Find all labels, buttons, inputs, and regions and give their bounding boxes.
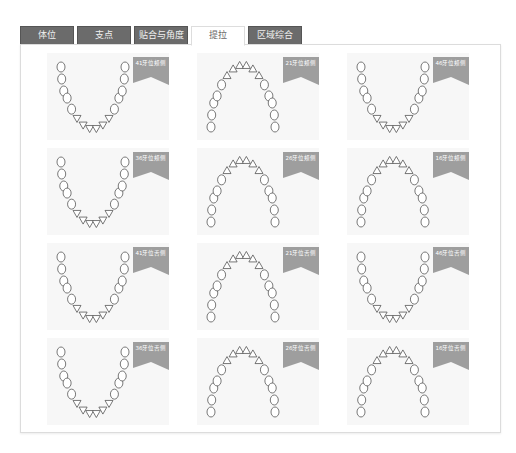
- card-label: 21牙位舌侧: [283, 249, 319, 257]
- tooth-position-card[interactable]: 26牙位舌侧: [197, 338, 319, 425]
- content-panel: 41牙位颊侧21牙位颊侧46牙位颊侧36牙位颊侧26牙位颊侧16牙位颊侧41牙位…: [20, 44, 501, 433]
- dental-arch-icon: [351, 247, 435, 327]
- tooth-grid: 41牙位颊侧21牙位颊侧46牙位颊侧36牙位颊侧26牙位颊侧16牙位颊侧41牙位…: [47, 53, 469, 425]
- card-label: 36牙位颊侧: [133, 154, 169, 162]
- dental-arch-icon: [201, 152, 285, 232]
- tooth-position-card[interactable]: 36牙位舌侧: [47, 338, 169, 425]
- tab-bar: 体位 支点 贴合与角度 提拉 区域综合: [20, 26, 302, 46]
- dental-arch-icon: [51, 247, 135, 327]
- dental-arch-icon: [351, 342, 435, 422]
- dental-arch-icon: [51, 152, 135, 232]
- card-label: 21牙位颊侧: [283, 59, 319, 67]
- card-label: 26牙位颊侧: [283, 154, 319, 162]
- tooth-position-card[interactable]: 46牙位颊侧: [347, 53, 469, 140]
- card-label: 41牙位颊侧: [133, 59, 169, 67]
- dental-arch-icon: [51, 57, 135, 137]
- dental-arch-icon: [201, 342, 285, 422]
- dental-arch-icon: [201, 247, 285, 327]
- tooth-position-card[interactable]: 36牙位颊侧: [47, 148, 169, 235]
- card-label: 26牙位舌侧: [283, 344, 319, 352]
- card-label: 36牙位舌侧: [133, 344, 169, 352]
- card-label: 46牙位颊侧: [433, 59, 469, 67]
- tab-fit-angle[interactable]: 贴合与角度: [134, 26, 188, 45]
- tooth-position-card[interactable]: 16牙位颊侧: [347, 148, 469, 235]
- card-label: 16牙位舌侧: [433, 344, 469, 352]
- dental-arch-icon: [351, 152, 435, 232]
- tooth-position-card[interactable]: 21牙位舌侧: [197, 243, 319, 330]
- tooth-position-card[interactable]: 46牙位舌侧: [347, 243, 469, 330]
- dental-arch-icon: [51, 342, 135, 422]
- tab-lift[interactable]: 提拉: [191, 26, 245, 46]
- tooth-position-card[interactable]: 16牙位舌侧: [347, 338, 469, 425]
- dental-arch-icon: [201, 57, 285, 137]
- card-label: 46牙位舌侧: [433, 249, 469, 257]
- tab-region[interactable]: 区域综合: [248, 26, 302, 45]
- tooth-position-card[interactable]: 41牙位舌侧: [47, 243, 169, 330]
- tooth-position-card[interactable]: 41牙位颊侧: [47, 53, 169, 140]
- tab-fulcrum[interactable]: 支点: [77, 26, 131, 45]
- tab-posture[interactable]: 体位: [20, 26, 74, 45]
- card-label: 16牙位颊侧: [433, 154, 469, 162]
- dental-arch-icon: [351, 57, 435, 137]
- tooth-position-card[interactable]: 21牙位颊侧: [197, 53, 319, 140]
- tooth-position-card[interactable]: 26牙位颊侧: [197, 148, 319, 235]
- card-label: 41牙位舌侧: [133, 249, 169, 257]
